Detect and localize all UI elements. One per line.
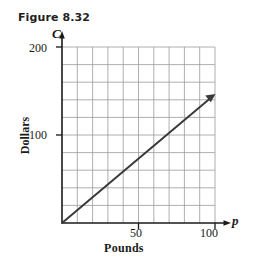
- x-axis-variable-label: p: [232, 213, 239, 229]
- x-axis-arrowhead: [224, 220, 232, 226]
- y-axis-title: Dollars: [18, 103, 33, 169]
- x-tick-label-100: 100: [200, 226, 218, 241]
- y-tick-label-200: 200: [29, 41, 47, 56]
- figure-container: Figure 8.32: [0, 0, 265, 262]
- x-tick-label-50: 50: [130, 226, 142, 241]
- y-tick-marks: [56, 47, 62, 135]
- x-axis-title: Pounds: [104, 241, 144, 256]
- y-axis-variable-label: C: [52, 26, 61, 42]
